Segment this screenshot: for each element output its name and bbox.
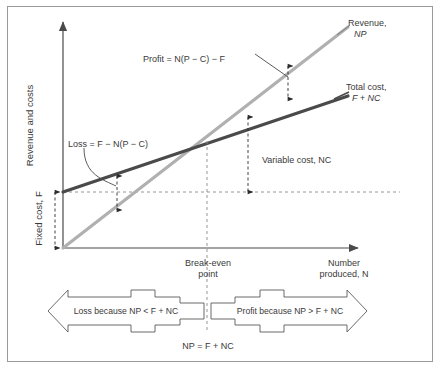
- x-axis-title: Number produced, N: [296, 258, 392, 280]
- breakeven-figure: Revenue and costs Fixed cost, F Revenue,…: [0, 0, 441, 374]
- loss-band-label: Loss because NP < F + NC: [60, 306, 192, 317]
- profit-leader-line: [255, 54, 288, 77]
- revenue-series-label: Revenue, NP: [348, 18, 387, 40]
- loss-formula-label: Loss = F − N(P − C): [68, 139, 148, 150]
- fixed-cost-label: Fixed cost, F: [33, 188, 44, 250]
- total-cost-series-label: Total cost, F + NC: [346, 82, 387, 104]
- variable-cost-label: Variable cost, NC: [262, 155, 331, 166]
- break-even-point-label: Break-even point: [162, 258, 254, 280]
- profit-formula-label: Profit = N(P − C) − F: [143, 54, 225, 65]
- break-even-equation-label: NP = F + NC: [160, 341, 256, 352]
- profit-band-label: Profit because NP > F + NC: [221, 306, 359, 317]
- y-axis-title: Revenue and costs: [24, 71, 35, 181]
